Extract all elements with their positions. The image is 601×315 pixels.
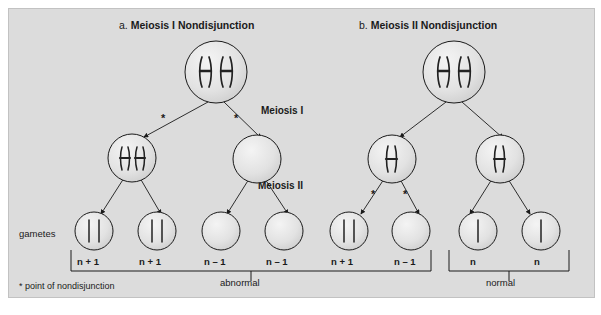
abnormal-bracket [71, 250, 431, 281]
normal-bracket [449, 250, 569, 281]
parent-cell-b [423, 41, 485, 103]
gamete-cell-6 [392, 212, 430, 250]
gamete-cell-4 [265, 212, 303, 250]
meiosis1-cell-a-right [233, 135, 281, 183]
figure-panel: a. Meiosis I Nondisjunction b. Meiosis I… [8, 8, 595, 298]
gamete-cell-3 [202, 212, 240, 250]
meiosis1-cell-b-left [368, 135, 416, 183]
gamete-cell-5 [330, 212, 368, 250]
meiosis-diagram-graphics [9, 9, 594, 297]
gamete-cell-2 [138, 212, 176, 250]
meiosis1-cell-b-right [476, 135, 524, 183]
gamete-cell-8 [522, 212, 560, 250]
gamete-cell-1 [75, 212, 113, 250]
lineage-arrows [101, 102, 530, 214]
meiosis1-cell-a-left [108, 134, 156, 182]
parent-cell-a [185, 41, 247, 103]
gamete-cell-7 [459, 212, 497, 250]
